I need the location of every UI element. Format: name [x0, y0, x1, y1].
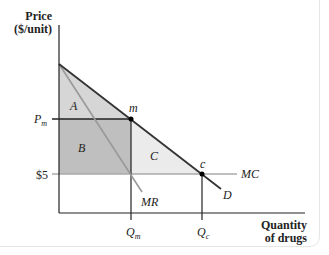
mr-label: MR — [140, 195, 159, 209]
y-axis-title-2: ($/unit) — [14, 22, 52, 36]
y-tick-pm: Pm — [33, 112, 47, 128]
point-c-label: c — [200, 157, 206, 171]
demand-label: D — [222, 188, 232, 202]
region-b-label: B — [78, 141, 86, 155]
x-axis-title-2: of drugs — [265, 231, 308, 245]
mc-label: MC — [240, 167, 260, 181]
region-b — [59, 119, 131, 174]
region-c-label: C — [150, 149, 159, 163]
point-c — [200, 172, 205, 177]
y-tick-5: $5 — [36, 168, 48, 182]
monopoly-chart: Price ($/unit) Quantity of drugs Pm $5 Q… — [0, 0, 329, 255]
point-m — [129, 117, 134, 122]
x-tick-qc: Qc — [197, 225, 210, 241]
region-a-label: A — [69, 99, 78, 113]
x-tick-qm: Qm — [126, 225, 141, 241]
point-m-label: m — [129, 101, 138, 115]
x-axis-title-1: Quantity — [261, 218, 307, 232]
y-axis-title-1: Price — [25, 9, 52, 23]
